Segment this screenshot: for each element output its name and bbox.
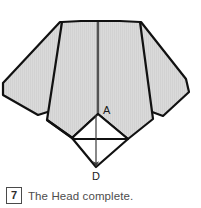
caption-area: 7 The Head complete. (0, 183, 201, 208)
figure-area: A D (0, 0, 201, 183)
step-number-badge: 7 (6, 187, 22, 204)
caption-text: The Head complete. (28, 190, 133, 202)
vertex-label-a: A (103, 104, 111, 116)
vertex-label-d: D (92, 170, 100, 182)
diagram-page: A D 7 The Head complete. (0, 0, 201, 208)
origami-figure: A D (0, 0, 201, 183)
